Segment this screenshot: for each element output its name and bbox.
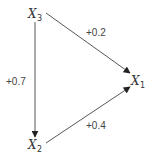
node-x3-subscript: 3 — [37, 14, 42, 23]
node-x1: X 1 — [130, 74, 145, 90]
node-x2-subscript: 2 — [37, 145, 42, 154]
edge-label-x3-x2: +0.7 — [6, 76, 26, 87]
node-x3-label: X — [27, 7, 37, 21]
node-x1-subscript: 1 — [140, 81, 145, 90]
node-x2: X 2 — [27, 138, 42, 154]
node-x3: X 3 — [27, 7, 42, 23]
node-x2-label: X — [27, 138, 37, 152]
edge-x3-x1: +0.2 — [46, 13, 130, 73]
edge-x2-x1: +0.4 — [46, 87, 130, 143]
edge-line-x2-x1 — [46, 87, 130, 143]
edge-label-x2-x1: +0.4 — [86, 120, 106, 131]
edge-line-x3-x1 — [46, 13, 130, 73]
node-x1-label: X — [130, 74, 140, 88]
edge-label-x3-x1: +0.2 — [86, 27, 106, 38]
causal-diagram: +0.2 +0.7 +0.4 X 3 X 1 X 2 — [0, 0, 148, 159]
edge-x3-x2: +0.7 — [6, 22, 35, 137]
